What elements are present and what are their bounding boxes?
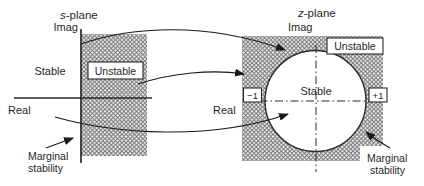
diagram-canvas: Unstable s-plane Imag Stable Real Margin… bbox=[0, 0, 424, 186]
s-plane-stable-label: Stable bbox=[34, 65, 65, 77]
s-plane-title: s-plane bbox=[60, 9, 98, 21]
s-plane-unstable-region bbox=[81, 34, 147, 156]
s-plane-imag-label: Imag bbox=[54, 21, 78, 33]
z-plane-plus-one-label: +1 bbox=[373, 90, 384, 101]
z-plane-title: z-plane bbox=[297, 7, 336, 19]
s-plane-marginal-stability-label-line1: Marginal bbox=[28, 150, 68, 162]
s-plane-unstable-label: Unstable bbox=[95, 65, 137, 77]
s-plane-real-label: Real bbox=[8, 104, 31, 116]
unstable-to-outside-circle-arrow bbox=[138, 72, 244, 84]
z-plane-marginal-stability-label-line1: Marginal bbox=[367, 152, 407, 164]
z-plane-marginal-stability-label-line2: stability bbox=[370, 164, 406, 176]
z-plane-unstable-label: Unstable bbox=[334, 40, 376, 52]
s-plane-marginal-stability-arrow bbox=[46, 138, 73, 148]
z-plane-imag-label: Imag bbox=[288, 21, 312, 33]
z-plane-real-label: Real bbox=[213, 104, 236, 116]
z-plane-stable-label: Stable bbox=[300, 85, 331, 97]
z-plane-minus-one-label: −1 bbox=[247, 90, 258, 101]
stability-mapping-diagram: Unstable s-plane Imag Stable Real Margin… bbox=[0, 0, 424, 186]
s-plane-marginal-stability-label-line2: stability bbox=[28, 162, 64, 174]
